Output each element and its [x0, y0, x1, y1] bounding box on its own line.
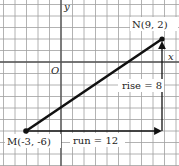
point-n-label: N(9, 2)	[132, 19, 168, 30]
x-axis-label: x	[168, 51, 174, 62]
origin-label: O	[51, 65, 59, 76]
run-label: run = 12	[73, 135, 118, 146]
point-n	[159, 36, 164, 41]
coordinate-plane: y x O N(9, 2) M(-3, -6) rise = 8 run = 1…	[0, 0, 179, 166]
y-axis-label: y	[63, 1, 70, 12]
point-m	[23, 128, 29, 134]
coordinate-plane-figure: y x O N(9, 2) M(-3, -6) rise = 8 run = 1…	[0, 0, 179, 166]
point-m-label: M(-3, -6)	[7, 136, 51, 147]
rise-label: rise = 8	[122, 80, 162, 91]
